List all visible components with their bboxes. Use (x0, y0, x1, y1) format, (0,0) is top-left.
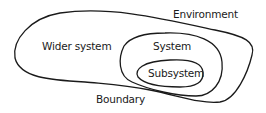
environment-label: Environment (173, 8, 238, 20)
system-label: System (153, 40, 191, 52)
boundary-label: Boundary (96, 93, 145, 105)
subsystem-label: Subsystem (148, 67, 204, 79)
wider-system-label: Wider system (42, 40, 111, 52)
wider-system-boundary (15, 11, 253, 102)
systems-diagram: Environment Wider system System Subsyste… (0, 0, 266, 113)
